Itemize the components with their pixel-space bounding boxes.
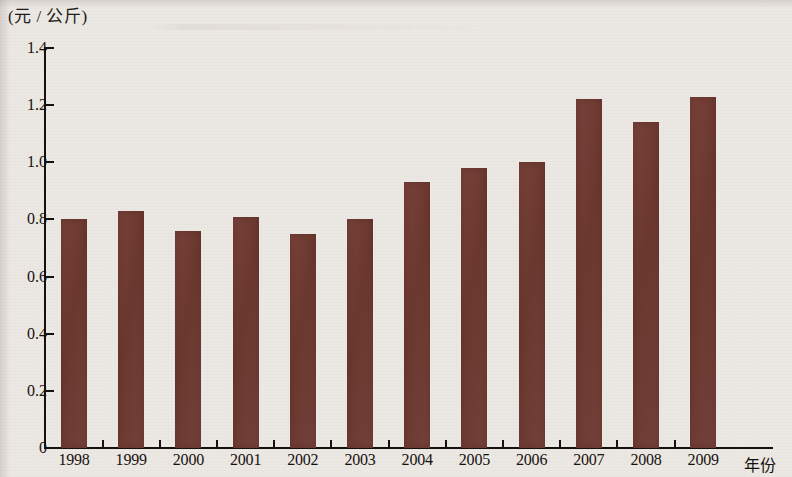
- y-tick-label: 0.8: [7, 211, 47, 227]
- x-tick-label-1999: 1999: [102, 452, 160, 468]
- y-tick-label: 0.2: [7, 383, 47, 399]
- plot-area: 1.41.21.00.80.60.40.20 19981999200020012…: [0, 0, 792, 477]
- x-axis-title: 年份: [744, 452, 776, 476]
- x-tick-mark: [559, 440, 561, 448]
- y-tick-mark: [46, 104, 54, 106]
- y-tick-mark: [46, 161, 54, 163]
- bar-2009: [690, 97, 716, 448]
- x-tick-label-2007: 2007: [560, 452, 618, 468]
- x-tick-mark: [388, 440, 390, 448]
- bar-2000: [175, 231, 201, 448]
- y-tick-mark: [46, 390, 54, 392]
- x-tick-label-2005: 2005: [445, 452, 503, 468]
- x-tick-mark: [102, 440, 104, 448]
- y-tick-mark: [46, 333, 54, 335]
- x-tick-label-2001: 2001: [217, 452, 275, 468]
- x-tick-mark: [330, 440, 332, 448]
- x-tick-mark: [616, 440, 618, 448]
- bar-1999: [118, 211, 144, 448]
- y-tick-label: 0.6: [7, 269, 47, 285]
- bar-2001: [233, 217, 259, 448]
- y-tick-mark: [46, 447, 54, 449]
- x-tick-label-2008: 2008: [617, 452, 675, 468]
- y-tick-mark: [46, 276, 54, 278]
- x-tick-mark: [445, 440, 447, 448]
- x-tick-mark: [674, 440, 676, 448]
- y-tick-mark: [46, 218, 54, 220]
- x-tick-label-2004: 2004: [388, 452, 446, 468]
- x-tick-label-2000: 2000: [159, 452, 217, 468]
- y-tick-label: 1.2: [7, 97, 47, 113]
- x-tick-label-2006: 2006: [503, 452, 561, 468]
- x-tick-label-2003: 2003: [331, 452, 389, 468]
- bar-2005: [461, 168, 487, 448]
- price-per-kilogram-bar-chart: (元 / 公斤) 1.41.21.00.80.60.40.20 19981999…: [0, 0, 792, 477]
- y-tick-label: 0.4: [7, 326, 47, 342]
- x-tick-label-2002: 2002: [274, 452, 332, 468]
- x-tick-label-1998: 1998: [45, 452, 103, 468]
- y-tick-label: 1.4: [7, 40, 47, 56]
- bar-2008: [633, 122, 659, 448]
- bar-2007: [576, 99, 602, 448]
- bar-2006: [519, 162, 545, 448]
- x-tick-mark: [216, 440, 218, 448]
- bar-1998: [61, 219, 87, 448]
- y-tick-label: 1.0: [7, 154, 47, 170]
- x-tick-mark: [502, 440, 504, 448]
- bar-2004: [404, 182, 430, 448]
- y-tick-label: 0: [7, 440, 47, 456]
- bar-2002: [290, 234, 316, 448]
- y-tick-mark: [46, 47, 54, 49]
- x-tick-label-2009: 2009: [674, 452, 732, 468]
- x-tick-mark: [159, 440, 161, 448]
- bar-2003: [347, 219, 373, 448]
- x-tick-mark: [273, 440, 275, 448]
